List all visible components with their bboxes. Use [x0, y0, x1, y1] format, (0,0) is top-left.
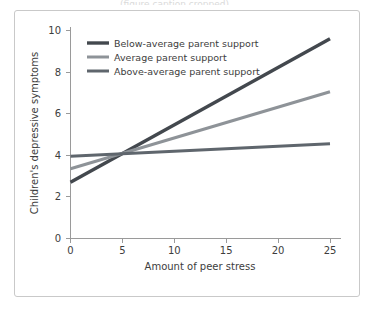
legend-label-below-average: Below-average parent support [114, 38, 259, 49]
y-tick-label-0: 0 [55, 233, 61, 244]
y-tick-label-8: 8 [55, 67, 61, 78]
x-axis-ticks: 0 5 10 15 20 25 [67, 239, 336, 257]
x-tick-label-5: 5 [119, 245, 125, 256]
legend-label-above-average: Above-average parent support [114, 66, 260, 77]
x-tick-label-25: 25 [324, 245, 337, 256]
y-tick-label-6: 6 [55, 108, 61, 119]
legend: Below-average parent support Average par… [87, 38, 260, 77]
x-tick-label-10: 10 [168, 245, 181, 256]
x-axis-title: Amount of peer stress [145, 261, 256, 272]
y-tick-label-10: 10 [48, 25, 61, 36]
x-tick-label-15: 15 [220, 245, 233, 256]
x-tick-label-0: 0 [67, 245, 73, 256]
legend-item-below-average[interactable]: Below-average parent support [87, 38, 259, 49]
line-chart: 10 8 6 4 2 0 0 5 10 15 20 25 Amount of p… [0, 0, 374, 317]
series-line-above-average [71, 144, 331, 157]
series-line-average [71, 92, 331, 169]
y-axis-title: Children's depressive symptoms [29, 52, 40, 214]
x-tick-label-20: 20 [272, 245, 285, 256]
legend-label-average: Average parent support [114, 52, 227, 63]
y-tick-label-4: 4 [55, 150, 61, 161]
legend-item-average[interactable]: Average parent support [87, 52, 227, 63]
y-axis-ticks: 10 8 6 4 2 0 [48, 25, 70, 244]
y-tick-label-2: 2 [55, 191, 61, 202]
legend-item-above-average[interactable]: Above-average parent support [87, 66, 260, 77]
